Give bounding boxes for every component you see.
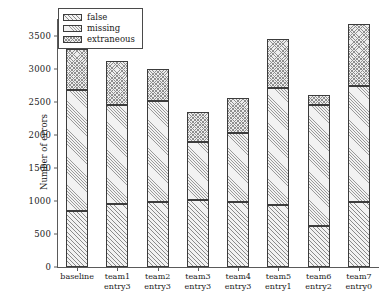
bar-stack <box>187 19 209 267</box>
x-tick-label-line: team5 <box>265 272 292 282</box>
x-tick-mark <box>319 267 320 271</box>
x-tick-label-line: baseline <box>60 272 94 282</box>
x-tick-label-line: entry3 <box>225 282 252 292</box>
legend-label: extraneous <box>87 34 135 45</box>
legend: falsemissingextraneous <box>58 8 143 49</box>
x-tick-label: baseline <box>60 272 94 282</box>
bar-stack <box>106 19 128 267</box>
plot-area: 0500100015002000250030003500 <box>57 19 379 268</box>
bar-segment-false <box>66 211 88 267</box>
x-tick-label: team1entry3 <box>104 272 131 292</box>
x-tick-label-line: entry3 <box>185 282 212 292</box>
bar-segment-extraneous <box>227 98 249 132</box>
x-tick-label-line: entry3 <box>104 282 131 292</box>
legend-swatch-false <box>63 14 82 21</box>
x-tick-label-line: team1 <box>104 272 131 282</box>
x-tick-label: team4entry3 <box>225 272 252 292</box>
bar-segment-extraneous <box>308 95 330 105</box>
x-axis-line <box>57 267 379 268</box>
bar-segment-extraneous <box>348 24 370 86</box>
x-tick-label-line: entry3 <box>144 282 171 292</box>
y-tick-label: 2500 <box>29 97 57 107</box>
legend-label: missing <box>87 23 120 34</box>
x-tick-label: team3entry3 <box>185 272 212 292</box>
y-tick-label: 1500 <box>29 163 57 173</box>
y-tick-label: 3000 <box>29 64 57 74</box>
bar-stack <box>308 19 330 267</box>
bar-stack <box>147 19 169 267</box>
bar-segment-missing <box>66 90 88 211</box>
x-tick-mark <box>158 267 159 271</box>
bar-segment-missing <box>308 105 330 226</box>
legend-label: false <box>87 12 107 23</box>
legend-item-missing: missing <box>63 23 135 34</box>
bar-segment-false <box>267 205 289 267</box>
x-axis-labels: baselineteam1entry3team2entry3team3entry… <box>57 272 379 300</box>
bar-stack <box>66 19 88 267</box>
x-tick-label-line: entry2 <box>305 282 332 292</box>
legend-item-false: false <box>63 12 135 23</box>
bar-stack <box>267 19 289 267</box>
bar-segment-extraneous <box>267 39 289 89</box>
x-tick-mark <box>359 267 360 271</box>
y-axis-title: Number of errors <box>39 114 49 190</box>
x-tick-mark <box>278 267 279 271</box>
x-tick-label: team5entry1 <box>265 272 292 292</box>
bar-segment-false <box>106 204 128 267</box>
bar-segment-false <box>187 200 209 267</box>
x-tick-label-line: entry0 <box>346 282 373 292</box>
bars-layer <box>57 19 379 267</box>
bar-segment-false <box>308 226 330 267</box>
bar-stack <box>348 19 370 267</box>
x-tick-label-line: team4 <box>225 272 252 282</box>
bar-chart: Number of errors 05001000150020002500300… <box>0 0 387 303</box>
x-tick-label-line: entry1 <box>265 282 292 292</box>
bar-segment-extraneous <box>187 112 209 142</box>
bar-segment-missing <box>267 88 289 205</box>
x-tick-label-line: team3 <box>185 272 212 282</box>
x-tick-label-line: team6 <box>305 272 332 282</box>
bar-stack <box>227 19 249 267</box>
bar-segment-missing <box>227 133 249 202</box>
x-tick-mark <box>198 267 199 271</box>
x-tick-label: team6entry2 <box>305 272 332 292</box>
x-tick-label: team7entry0 <box>346 272 373 292</box>
bar-segment-missing <box>348 86 370 202</box>
x-tick-label-line: team2 <box>144 272 171 282</box>
y-tick-label: 1000 <box>29 196 57 206</box>
x-tick-mark <box>77 267 78 271</box>
bar-segment-extraneous <box>106 61 128 105</box>
bar-segment-missing <box>187 142 209 200</box>
x-tick-mark <box>238 267 239 271</box>
bar-segment-missing <box>106 105 128 204</box>
legend-swatch-extraneous <box>63 36 82 43</box>
bar-segment-false <box>348 202 370 267</box>
bar-segment-false <box>227 202 249 267</box>
legend-swatch-missing <box>63 25 82 32</box>
bar-segment-false <box>147 202 169 267</box>
x-tick-mark <box>117 267 118 271</box>
x-tick-label: team2entry3 <box>144 272 171 292</box>
bar-segment-missing <box>147 101 169 202</box>
y-tick-label: 2000 <box>29 130 57 140</box>
bar-segment-extraneous <box>66 49 88 91</box>
bar-segment-extraneous <box>147 69 169 101</box>
y-tick-label: 3500 <box>29 31 57 41</box>
x-tick-label-line: team7 <box>346 272 373 282</box>
legend-item-extraneous: extraneous <box>63 34 135 45</box>
